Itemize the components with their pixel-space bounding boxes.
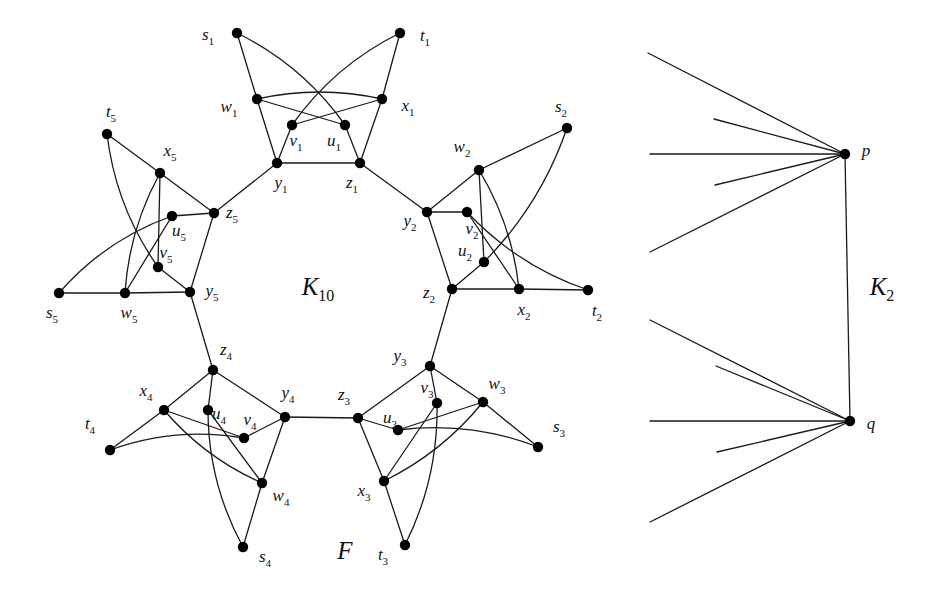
ray-q-2 bbox=[716, 366, 850, 421]
edge-t5-v5 bbox=[107, 134, 158, 267]
edge-x4-z4 bbox=[164, 370, 213, 410]
edge-x3-z3 bbox=[358, 418, 384, 481]
vertex-label-t5: t5 bbox=[106, 102, 116, 123]
edge-u2-z2 bbox=[452, 262, 484, 289]
vertex-v1 bbox=[287, 120, 297, 130]
vertex-label-w5: w5 bbox=[121, 303, 138, 324]
vertex-y4 bbox=[280, 412, 290, 422]
edge-w2-u2 bbox=[479, 170, 484, 262]
vertex-label-v4: v4 bbox=[243, 410, 256, 431]
vertex-label-s1: s1 bbox=[202, 25, 214, 46]
edge-w5-y5 bbox=[125, 292, 190, 293]
ray-q-5 bbox=[650, 421, 850, 522]
edge-y5-z5 bbox=[190, 213, 214, 292]
vertex-label-w2: w2 bbox=[454, 137, 471, 158]
vertex-u2 bbox=[479, 257, 489, 267]
vertex-t2 bbox=[583, 285, 593, 295]
vertex-label-u3: u3 bbox=[383, 408, 397, 429]
edge-w3-y3 bbox=[430, 366, 483, 402]
ring-edge-z3-y4 bbox=[285, 417, 358, 418]
label-f: F bbox=[337, 537, 352, 565]
edge-w2-y2 bbox=[427, 170, 479, 212]
edge-w1-u1 bbox=[257, 99, 345, 125]
vertex-label-t1: t1 bbox=[420, 26, 430, 47]
vertex-label-y3: y3 bbox=[393, 346, 406, 367]
edge-x1-z1 bbox=[360, 99, 382, 163]
graph-k2-edges bbox=[648, 53, 850, 522]
vertex-label-y2: y2 bbox=[403, 211, 416, 232]
edge-x1-v1 bbox=[292, 99, 382, 125]
figure-canvas: s1t1w1x1v1u1y1z1s2t2w2x2v2u2y2z2s3t3w3x3… bbox=[0, 0, 941, 603]
vertex-q bbox=[845, 416, 855, 426]
vertex-w2 bbox=[474, 165, 484, 175]
vertex-w5 bbox=[120, 288, 130, 298]
vertex-label-t4: t4 bbox=[85, 414, 95, 435]
edge-u5-z5 bbox=[172, 213, 214, 216]
vertex-z3 bbox=[353, 413, 363, 423]
vertex-v2 bbox=[462, 207, 472, 217]
vertex-s3 bbox=[533, 442, 543, 452]
edge-s5-u5 bbox=[59, 216, 172, 293]
edge-u1-z1 bbox=[345, 125, 360, 163]
vertex-z4 bbox=[208, 365, 218, 375]
ray-p-2 bbox=[714, 119, 845, 154]
edge-y2-z2 bbox=[427, 212, 452, 289]
vertex-s1 bbox=[232, 28, 242, 38]
vertex-w1 bbox=[252, 94, 262, 104]
vertex-w4 bbox=[257, 478, 267, 488]
vertex-label-y4: y4 bbox=[281, 383, 294, 404]
edge-t4-x4 bbox=[110, 410, 164, 450]
vertex-s4 bbox=[238, 542, 248, 552]
label-vertex-q: q bbox=[867, 414, 876, 434]
edge-w3-x3 bbox=[384, 402, 483, 481]
vertex-label-s5: s5 bbox=[46, 303, 58, 324]
ring-edge-z5-y1 bbox=[214, 163, 277, 213]
vertex-label-x2: x2 bbox=[517, 300, 530, 321]
edge-s4-u4 bbox=[208, 410, 243, 547]
ring-edge-z4-y5 bbox=[190, 292, 213, 370]
vertex-label-z1: z1 bbox=[346, 173, 358, 194]
vertex-label-u2: u2 bbox=[458, 241, 472, 262]
vertex-x3 bbox=[379, 476, 389, 486]
vertex-u5 bbox=[167, 211, 177, 221]
vertex-label-x3: x3 bbox=[357, 481, 370, 502]
edge-t1-v1 bbox=[292, 33, 400, 125]
ray-p-4 bbox=[715, 154, 845, 185]
vertex-t4 bbox=[105, 445, 115, 455]
ray-q-4 bbox=[717, 421, 850, 452]
vertex-z5 bbox=[209, 208, 219, 218]
edge-w5-x5 bbox=[125, 173, 160, 293]
vertex-label-z5: z5 bbox=[226, 203, 238, 224]
edge-x5-z5 bbox=[160, 173, 214, 213]
vertex-label-u4: u4 bbox=[212, 404, 226, 425]
vertex-label-x5: x5 bbox=[163, 141, 176, 162]
edge-t3-x3 bbox=[384, 481, 405, 545]
vertex-label-z4: z4 bbox=[220, 340, 232, 361]
vertex-label-z3: z3 bbox=[338, 385, 350, 406]
vertex-y2 bbox=[422, 207, 432, 217]
ring-edge-z1-y2 bbox=[360, 163, 427, 212]
vertex-t1 bbox=[395, 28, 405, 38]
edge-s1-u1 bbox=[237, 33, 345, 125]
vertex-u1 bbox=[340, 120, 350, 130]
vertex-label-w4: w4 bbox=[273, 486, 290, 507]
vertex-s2 bbox=[562, 123, 572, 133]
vertex-t3 bbox=[400, 540, 410, 550]
edge-t3-v3 bbox=[405, 403, 437, 545]
vertex-y1 bbox=[272, 158, 282, 168]
edge-t5-x5 bbox=[107, 134, 160, 173]
vertex-label-v3: v3 bbox=[420, 378, 433, 399]
vertex-label-x4: x4 bbox=[139, 381, 152, 402]
vertex-label-x1: x1 bbox=[401, 96, 414, 117]
vertex-t5 bbox=[102, 129, 112, 139]
vertex-y5 bbox=[185, 287, 195, 297]
vertex-x1 bbox=[377, 94, 387, 104]
edge-s4-w4 bbox=[243, 483, 262, 547]
vertex-x5 bbox=[155, 168, 165, 178]
vertex-x2 bbox=[514, 284, 524, 294]
edge-t2-x2 bbox=[519, 289, 588, 290]
edge-s2-w2 bbox=[479, 128, 567, 170]
vertex-label-w1: w1 bbox=[221, 97, 238, 118]
vertex-label-v5: v5 bbox=[159, 243, 172, 264]
vertex-label-t2: t2 bbox=[592, 301, 602, 322]
